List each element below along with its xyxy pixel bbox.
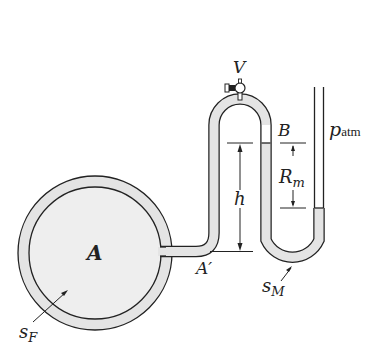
manometer-fluid-pointer xyxy=(281,266,292,281)
label-point-a-prime: A′ xyxy=(194,258,212,278)
label-atm-pressure: patm xyxy=(329,118,361,140)
label-manometer-fluid: sM xyxy=(262,275,285,299)
label-valve: V xyxy=(233,57,247,77)
manometer-diagram: V h Rm B patm A A′ sM sF xyxy=(0,0,391,364)
label-reading: Rm xyxy=(278,166,305,190)
label-point-b: B xyxy=(277,120,291,140)
label-tank-a: A xyxy=(85,241,103,265)
label-tank-fluid: sF xyxy=(19,321,38,345)
label-height: h xyxy=(234,188,246,209)
connecting-tube xyxy=(158,87,324,257)
